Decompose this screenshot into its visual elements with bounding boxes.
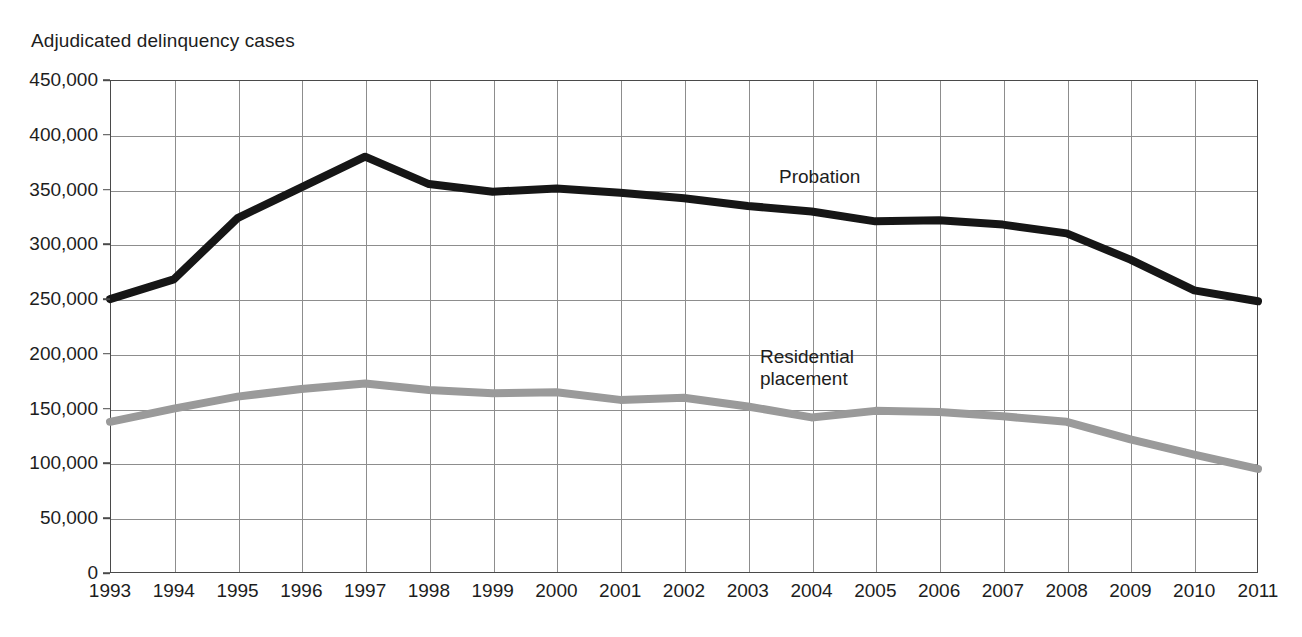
y-axis-tick-mark bbox=[103, 298, 110, 300]
x-axis-tick-label: 2004 bbox=[790, 580, 832, 602]
y-axis-tick-mark bbox=[103, 463, 110, 465]
series-lines bbox=[110, 80, 1258, 573]
x-axis-tick-label: 2001 bbox=[599, 580, 641, 602]
y-axis-tick-label: 50,000 bbox=[0, 507, 98, 529]
y-axis-tick-label: 300,000 bbox=[0, 233, 98, 255]
x-axis-tick-label: 2011 bbox=[1238, 580, 1279, 602]
y-axis-tick-mark bbox=[103, 517, 110, 519]
y-axis-tick-label: 150,000 bbox=[0, 398, 98, 420]
x-axis-tick-label: 2006 bbox=[918, 580, 960, 602]
x-axis-tick-label: 1994 bbox=[153, 580, 195, 602]
x-axis-tick-label: 1997 bbox=[344, 580, 386, 602]
y-axis-tick-label: 450,000 bbox=[0, 69, 98, 91]
y-axis-tick-mark bbox=[103, 79, 110, 81]
x-axis-tick-label: 2010 bbox=[1173, 580, 1215, 602]
y-axis-tick-label: 200,000 bbox=[0, 343, 98, 365]
x-axis-tick-label: 2002 bbox=[663, 580, 705, 602]
x-axis-tick-label: 2003 bbox=[727, 580, 769, 602]
x-axis-tick-label: 2009 bbox=[1109, 580, 1151, 602]
y-axis-tick-label: 350,000 bbox=[0, 179, 98, 201]
series-line-probation bbox=[110, 157, 1258, 302]
y-axis-tick-mark bbox=[103, 353, 110, 355]
y-axis-tick-label: 0 bbox=[0, 562, 98, 584]
chart-figure: Adjudicated delinquency cases 450,000400… bbox=[0, 0, 1302, 637]
series-label-probation: Probation bbox=[779, 166, 860, 188]
x-axis-tick-label: 1999 bbox=[472, 580, 514, 602]
y-axis-tick-label: 100,000 bbox=[0, 452, 98, 474]
series-line-residential-placement bbox=[110, 383, 1258, 468]
x-axis-tick-label: 1996 bbox=[280, 580, 322, 602]
x-axis-tick-label: 2008 bbox=[1046, 580, 1088, 602]
x-axis-tick-label: 2005 bbox=[854, 580, 896, 602]
y-axis-tick-mark bbox=[103, 244, 110, 246]
x-axis-tick-label: 2000 bbox=[535, 580, 577, 602]
y-axis-tick-mark bbox=[103, 134, 110, 136]
x-axis-tick-label: 1998 bbox=[408, 580, 450, 602]
x-axis-tick-label: 1995 bbox=[216, 580, 258, 602]
y-axis-tick-mark bbox=[103, 572, 110, 574]
y-axis-tick-labels: 450,000400,000350,000300,000250,000200,0… bbox=[0, 0, 98, 637]
x-axis-tick-label: 2007 bbox=[982, 580, 1024, 602]
y-axis-tick-label: 400,000 bbox=[0, 124, 98, 146]
y-axis-tick-mark bbox=[103, 408, 110, 410]
x-axis-tick-label: 1993 bbox=[89, 580, 131, 602]
series-label-residential: Residential placement bbox=[760, 346, 854, 390]
y-axis-tick-mark bbox=[103, 189, 110, 191]
y-axis-tick-label: 250,000 bbox=[0, 288, 98, 310]
